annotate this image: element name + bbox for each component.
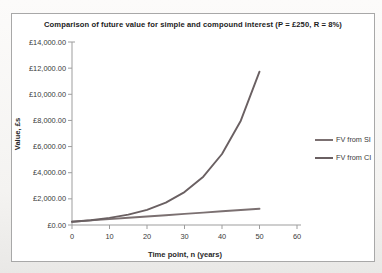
legend-label-ci: FV from CI [336, 153, 371, 162]
svg-text:£14,000.00: £14,000.00 [29, 38, 66, 47]
svg-text:50: 50 [255, 232, 263, 241]
svg-text:£12,000.00: £12,000.00 [29, 64, 66, 73]
svg-text:£4,000.00: £4,000.00 [33, 168, 66, 177]
svg-text:£0.00: £0.00 [48, 221, 67, 230]
svg-text:£10,000.00: £10,000.00 [29, 90, 66, 99]
legend-item-fv-from-ci: FV from CI [315, 153, 371, 162]
svg-text:30: 30 [180, 232, 188, 241]
svg-text:£2,000.00: £2,000.00 [33, 194, 66, 203]
legend: FV from SI FV from CI [315, 135, 371, 162]
svg-text:40: 40 [218, 232, 226, 241]
chart-frame: Comparison of future value for simple an… [11, 13, 375, 262]
x-axis-title: Time point, n (years) [72, 250, 298, 259]
svg-text:20: 20 [143, 232, 151, 241]
svg-text:10: 10 [105, 232, 113, 241]
scanned-chart-page: Comparison of future value for simple an… [0, 0, 382, 273]
legend-label-si: FV from SI [336, 135, 371, 144]
si-line-swatch-icon [315, 139, 333, 141]
svg-text:0: 0 [70, 232, 74, 241]
y-axis-title: Value, £s [13, 84, 25, 184]
legend-item-fv-from-si: FV from SI [315, 135, 371, 144]
svg-text:60: 60 [293, 232, 301, 241]
svg-text:£6,000.00: £6,000.00 [33, 142, 66, 151]
ci-line-swatch-icon [315, 157, 333, 159]
svg-text:£8,000.00: £8,000.00 [33, 116, 66, 125]
